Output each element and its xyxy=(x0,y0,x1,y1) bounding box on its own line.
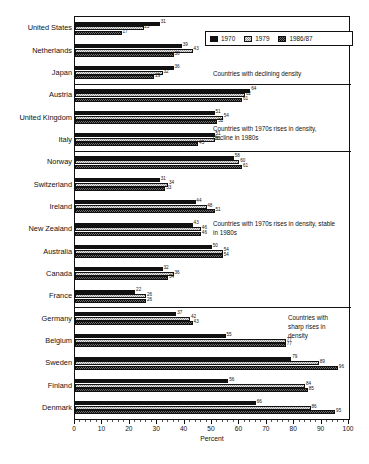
bar-value-label: 77 xyxy=(287,342,292,347)
bar-1970-australia xyxy=(75,245,212,249)
category-label-sweden: Sweden xyxy=(45,359,72,367)
bar-value-label: 56 xyxy=(229,378,234,383)
bar-1970-netherlands xyxy=(75,44,182,48)
bar-value-label: 45 xyxy=(199,141,204,146)
x-minor-tick xyxy=(206,420,207,422)
x-tick xyxy=(184,420,185,424)
bar-1986-austria xyxy=(75,98,242,102)
x-minor-tick xyxy=(315,420,316,422)
group-separator xyxy=(75,151,351,152)
x-minor-tick xyxy=(85,420,86,422)
bar-1986-new-zealand xyxy=(75,232,201,236)
bar-1986-norway xyxy=(75,165,242,169)
x-minor-tick xyxy=(107,420,108,422)
legend-item-1970: 1970 xyxy=(210,35,235,42)
bar-1986-sweden xyxy=(75,366,338,370)
x-minor-tick xyxy=(118,420,119,422)
x-tick-label: 30 xyxy=(153,425,160,432)
x-minor-tick xyxy=(271,420,272,422)
legend-item-1986: 1986/87 xyxy=(278,35,312,42)
bar-1970-switzerland xyxy=(75,178,160,182)
annotation-group-0: Countries with declining density xyxy=(213,69,353,78)
x-tick xyxy=(266,420,267,424)
category-label-united-states: United States xyxy=(28,24,72,32)
bar-1986-finland xyxy=(75,388,308,392)
bar-1986-canada xyxy=(75,276,168,280)
x-minor-tick xyxy=(260,420,261,422)
category-label-france: France xyxy=(49,292,72,300)
x-minor-tick xyxy=(195,420,196,422)
bar-1970-denmark xyxy=(75,401,256,405)
bar-1970-finland xyxy=(75,379,228,383)
bar-value-label: 36 xyxy=(174,52,179,57)
bar-value-label: 85 xyxy=(309,387,314,392)
bar-1979-united-kingdom xyxy=(75,116,223,120)
bar-value-label: 31 xyxy=(161,177,166,182)
x-minor-tick xyxy=(134,420,135,422)
category-label-austria: Austria xyxy=(49,91,72,99)
x-axis: 0102030405060708090100 Percent xyxy=(74,420,350,464)
x-minor-tick xyxy=(123,420,124,422)
x-tick-label: 70 xyxy=(262,425,269,432)
x-tick xyxy=(238,420,239,424)
bar-1970-italy xyxy=(75,133,215,137)
bar-1986-belgium xyxy=(75,343,286,347)
bar-value-label: 86 xyxy=(311,405,316,410)
bar-1979-finland xyxy=(75,384,305,388)
x-minor-tick xyxy=(255,420,256,422)
bar-value-label: 54 xyxy=(224,114,229,119)
category-label-new-zealand: New Zealand xyxy=(28,225,72,233)
x-axis-title: Percent xyxy=(74,435,350,442)
bar-1970-france xyxy=(75,290,135,294)
x-tick xyxy=(211,420,212,424)
x-tick-label: 60 xyxy=(235,425,242,432)
bar-1970-belgium xyxy=(75,334,226,338)
x-tick xyxy=(74,420,75,424)
bar-value-label: 17 xyxy=(122,30,127,35)
bar-1986-netherlands xyxy=(75,53,174,57)
group-separator xyxy=(75,307,351,308)
bar-value-label: 96 xyxy=(339,365,344,370)
bar-value-label: 46 xyxy=(202,231,207,236)
bar-1970-austria xyxy=(75,89,250,93)
x-minor-tick xyxy=(222,420,223,422)
bar-chart: 3125173943363632296462615154525151455860… xyxy=(0,0,369,464)
x-minor-tick xyxy=(178,420,179,422)
x-minor-tick xyxy=(79,420,80,422)
legend-swatch-1979-icon xyxy=(244,36,252,42)
x-minor-tick xyxy=(90,420,91,422)
category-label-belgium: Belgium xyxy=(45,337,72,345)
bar-1979-denmark xyxy=(75,406,311,410)
bar-value-label: 64 xyxy=(251,87,256,92)
bar-1970-norway xyxy=(75,156,234,160)
x-tick xyxy=(156,420,157,424)
x-minor-tick xyxy=(332,420,333,422)
bar-value-label: 95 xyxy=(336,409,341,414)
x-tick-label: 10 xyxy=(98,425,105,432)
bar-1979-australia xyxy=(75,250,223,254)
x-minor-tick xyxy=(227,420,228,422)
bar-value-label: 26 xyxy=(147,298,152,303)
legend-label-1979: 1979 xyxy=(255,35,269,42)
x-tick-label: 0 xyxy=(72,425,76,432)
x-minor-tick xyxy=(140,420,141,422)
bar-value-label: 79 xyxy=(292,355,297,360)
bar-1979-canada xyxy=(75,272,174,276)
x-minor-tick xyxy=(310,420,311,422)
bar-value-label: 32 xyxy=(163,70,168,75)
bar-1986-switzerland xyxy=(75,187,165,191)
x-minor-tick xyxy=(189,420,190,422)
x-minor-tick xyxy=(216,420,217,422)
x-minor-tick xyxy=(337,420,338,422)
x-tick-label: 90 xyxy=(317,425,324,432)
x-minor-tick xyxy=(282,420,283,422)
bar-1986-australia xyxy=(75,254,223,258)
x-minor-tick xyxy=(343,420,344,422)
bar-value-label: 51 xyxy=(216,208,221,213)
category-label-switzerland: Switzerland xyxy=(34,181,72,189)
bar-value-label: 43 xyxy=(194,47,199,52)
x-minor-tick xyxy=(162,420,163,422)
x-tick xyxy=(321,420,322,424)
legend-label-1986: 1986/87 xyxy=(289,35,312,42)
x-minor-tick xyxy=(96,420,97,422)
